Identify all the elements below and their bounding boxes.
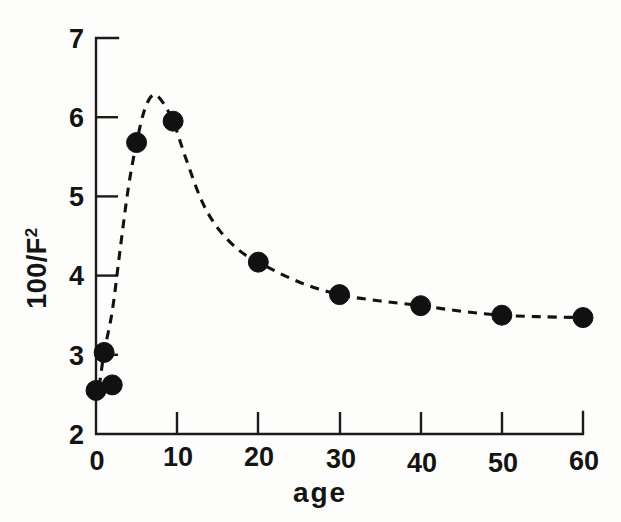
data-point [127, 133, 147, 153]
chart-plot-area: 7 6 5 4 3 2 0 10 20 30 40 50 60 100/F2 a… [0, 0, 621, 522]
y-tick-label: 2 [69, 420, 84, 450]
y-axis-title: 100/F2 [22, 227, 52, 309]
data-point [492, 305, 512, 325]
x-tick-label: 20 [244, 442, 274, 472]
x-tick-labels: 0 10 20 30 40 50 60 [89, 442, 599, 478]
data-point [330, 285, 350, 305]
data-point [573, 308, 593, 328]
axes-spine [96, 38, 583, 434]
data-point [163, 111, 183, 131]
x-tick-label: 60 [569, 446, 599, 476]
x-tick-label: 10 [163, 442, 193, 472]
data-point [411, 296, 431, 316]
data-point [102, 375, 122, 395]
y-tick-label: 3 [69, 341, 84, 371]
chart-figure: 7 6 5 4 3 2 0 10 20 30 40 50 60 100/F2 a… [0, 0, 621, 522]
cropped-caption-sliver [0, 512, 621, 522]
x-axis-title: age [293, 477, 347, 508]
data-point-markers [86, 111, 593, 400]
data-point [248, 252, 268, 272]
fitted-curve [99, 94, 583, 386]
svg-text:100/F2: 100/F2 [22, 227, 52, 309]
y-tick-label: 5 [69, 182, 84, 212]
x-tick-label: 30 [326, 444, 356, 474]
x-axis-ticks [177, 412, 502, 434]
y-axis-title-exponent: 2 [22, 227, 41, 237]
y-tick-label: 4 [69, 261, 84, 291]
y-axis-title-base: 100/F [22, 237, 52, 309]
y-tick-label: 6 [69, 103, 84, 133]
x-tick-label: 40 [407, 448, 437, 478]
x-tick-label: 50 [488, 448, 518, 478]
y-tick-label: 7 [69, 24, 84, 54]
data-point [94, 342, 114, 362]
y-tick-labels: 7 6 5 4 3 2 [69, 24, 84, 450]
x-tick-label: 0 [89, 446, 104, 476]
y-axis-ticks [96, 117, 118, 355]
